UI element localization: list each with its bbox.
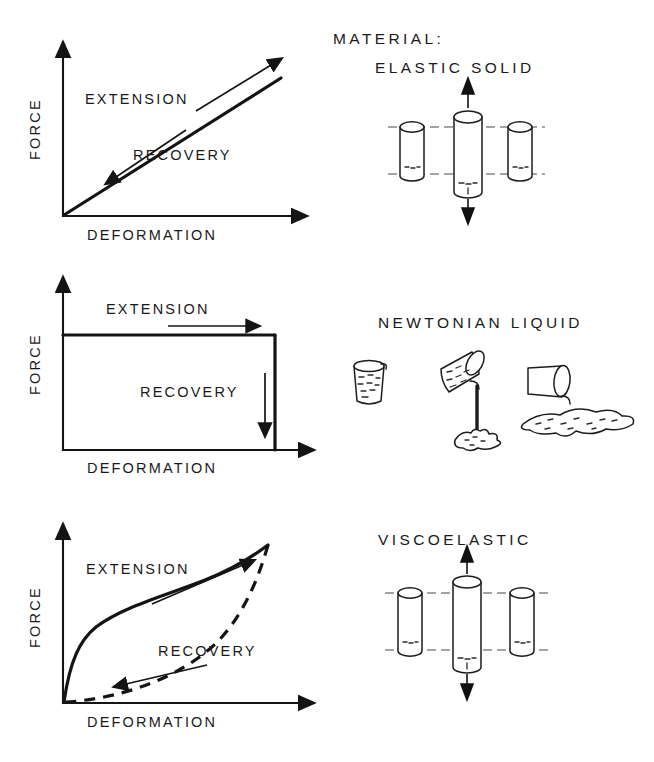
recovery-label: RECOVERY — [133, 147, 232, 163]
splash-puddle — [455, 429, 501, 450]
illustration-viscoelastic — [385, 546, 548, 700]
y-axis-label: FORCE — [27, 98, 43, 160]
row-newtonian-liquid: EXTENSION RECOVERY DEFORMATION FORCE NEW… — [27, 291, 634, 476]
cylinder-center-stretched — [453, 546, 481, 700]
material-header: MATERIAL: — [333, 30, 444, 47]
force-arrow-up-head — [461, 546, 473, 562]
material-label-viscoelastic: VISCOELASTIC — [378, 531, 532, 548]
material-label-newtonian-liquid: NEWTONIAN LIQUID — [378, 314, 583, 331]
recovery-label: RECOVERY — [158, 643, 257, 659]
illustration-newtonian-liquid — [354, 348, 634, 451]
cylinder-left — [400, 122, 424, 181]
cylinder-right — [508, 122, 532, 181]
force-arrow-down-head — [461, 684, 473, 700]
material-behavior-figure: EXTENSION RECOVERY DEFORMATION FORCE MAT… — [0, 0, 654, 762]
beaker-empty — [528, 365, 572, 404]
recovery-label: RECOVERY — [140, 384, 239, 400]
spread-puddle — [522, 409, 634, 436]
y-axis-label: FORCE — [27, 333, 43, 395]
chart-elastic-solid: EXTENSION RECOVERY DEFORMATION FORCE — [27, 56, 293, 243]
chart-viscoelastic: EXTENSION RECOVERY DEFORMATION FORCE — [27, 538, 300, 730]
row-elastic-solid: EXTENSION RECOVERY DEFORMATION FORCE MAT… — [27, 30, 545, 243]
illustration-elastic-solid — [388, 78, 545, 224]
force-arrow-up-head — [462, 78, 474, 94]
force-arrow-down-head — [462, 208, 474, 224]
extension-label: EXTENSION — [86, 561, 190, 577]
row-viscoelastic: EXTENSION RECOVERY DEFORMATION FORCE VIS… — [27, 531, 548, 730]
beaker-pouring — [441, 348, 501, 451]
extension-arrow — [196, 65, 271, 111]
cylinder-center-stretched — [454, 78, 482, 224]
x-axis-label: DEFORMATION — [87, 460, 217, 476]
extension-label: EXTENSION — [85, 91, 189, 107]
cylinder-right — [510, 588, 534, 656]
recovery-arrow — [126, 665, 207, 684]
y-axis-label: FORCE — [27, 586, 43, 648]
beaker-full — [354, 360, 386, 404]
cylinder-left — [398, 588, 422, 656]
x-axis-label: DEFORMATION — [87, 227, 217, 243]
x-axis-label: DEFORMATION — [87, 714, 217, 730]
extension-label: EXTENSION — [106, 301, 210, 317]
chart-newtonian-liquid: EXTENSION RECOVERY DEFORMATION FORCE — [27, 291, 300, 476]
material-label-elastic-solid: ELASTIC SOLID — [375, 59, 535, 76]
